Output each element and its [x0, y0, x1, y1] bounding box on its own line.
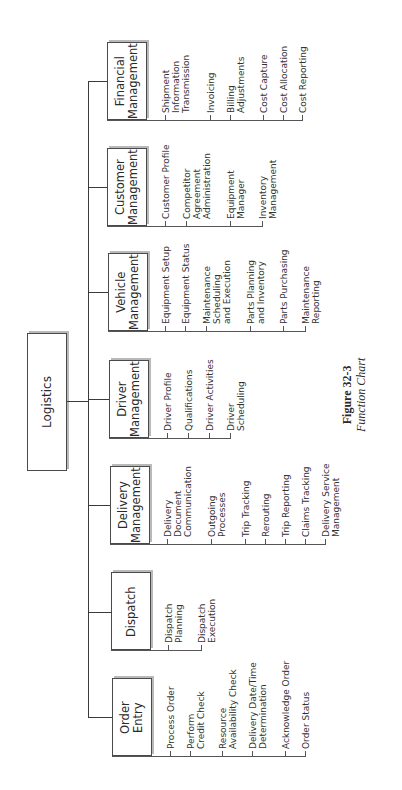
sub-item-delivery-document-communication: Delivery Document Communication: [163, 466, 193, 537]
root-label: Logistics: [40, 376, 54, 428]
sub-item-driver-scheduling: Driver Scheduling: [226, 381, 246, 431]
sub-item-trip-reporting: Trip Reporting: [281, 474, 291, 537]
sub-item-order-status: Order Status: [301, 692, 311, 749]
sub-item-cost-reporting: Cost Reporting: [298, 46, 308, 113]
sub-item-tick: [325, 539, 326, 544]
sub-item-parts-purchasing: Parts Purchasing: [279, 249, 289, 324]
function-box-financial-management: Financial Management: [107, 42, 147, 120]
sub-item-tick: [250, 326, 251, 331]
sub-item-tick: [305, 326, 306, 331]
sub-item-tick: [188, 433, 189, 438]
sub-item-tick: [230, 115, 231, 120]
sub-item-tick: [201, 645, 202, 650]
sub-item-dispatch-planning: Dispatch Planning: [164, 603, 184, 643]
sub-item-driver-activities: Driver Activities: [205, 359, 215, 431]
sub-item-rail: [110, 544, 326, 545]
sub-item-acknowledge-order: Acknowledge Order: [281, 661, 291, 749]
function-box-driver-management: Driver Management: [109, 360, 149, 438]
function-box-label: Customer Management: [114, 149, 140, 225]
sub-item-tick: [168, 645, 169, 650]
sub-item-claims-tracking: Claims Tracking: [301, 466, 311, 537]
sub-item-qualifications: Qualifications: [184, 370, 194, 431]
figure-title: Function Chart: [354, 358, 368, 432]
sub-item-tick: [305, 539, 306, 544]
sub-item-cost-capture: Cost Capture: [259, 54, 269, 113]
sub-item-tick: [209, 433, 210, 438]
sub-item-rail: [111, 650, 202, 651]
sub-item-trip-tracking: Trip Tracking: [241, 481, 251, 537]
sub-item-competitor-agreement-administration: Competitor Agreement Administration: [182, 153, 212, 219]
sub-item-maintenance-scheduling-and-execution: Maintenance Scheduling and Execution: [202, 260, 232, 324]
sub-item-tick: [285, 539, 286, 544]
sub-item-maintenance-reporting: Maintenance Reporting: [301, 266, 321, 324]
sub-item-tick: [305, 751, 306, 756]
sub-item-tick: [265, 539, 266, 544]
function-box-order-entry: Order Entry: [112, 678, 152, 756]
branch-line: [88, 717, 112, 718]
sub-item-inventory-management: Inventory Management: [258, 160, 278, 219]
sub-item-tick: [211, 539, 212, 544]
sub-item-tick: [165, 115, 166, 120]
sub-item-tick: [302, 115, 303, 120]
sub-item-tick: [285, 751, 286, 756]
sub-item-delivery-service-management: Delivery Service Management: [321, 464, 341, 537]
function-box-label: Dispatch: [125, 586, 138, 637]
sub-item-tick: [167, 539, 168, 544]
function-box-vehicle-management: Vehicle Management: [108, 253, 148, 331]
sub-item-tick: [262, 221, 263, 226]
sub-item-resource-availability-check: Resource Availability Check: [218, 669, 238, 749]
sub-item-tick: [185, 326, 186, 331]
branch-line: [88, 505, 110, 506]
sub-item-equipment-setup: Equipment Setup: [161, 246, 171, 324]
root-box-logistics: Logistics: [27, 333, 67, 471]
function-box-label: Vehicle Management: [115, 254, 141, 330]
sub-item-customer-profile: Customer Profile: [161, 144, 171, 219]
sub-item-perform-credit-check: Perform Credit Check: [186, 691, 206, 749]
sub-item-tick: [210, 115, 211, 120]
sub-item-equipment-status: Equipment Status: [181, 244, 191, 324]
sub-item-tick: [222, 751, 223, 756]
function-box-customer-management: Customer Management: [107, 148, 147, 226]
sub-item-rail: [108, 331, 306, 332]
sub-item-parts-planning-and-inventory: Parts Planning and Inventory: [246, 260, 266, 324]
sub-item-tick: [283, 115, 284, 120]
sub-item-tick: [170, 751, 171, 756]
sub-item-delivery-date-time-determination: Delivery Date/Time Determination: [248, 662, 268, 749]
sub-item-invoicing: Invoicing: [206, 72, 216, 113]
sub-item-tick: [252, 751, 253, 756]
function-box-label: Financial Management: [114, 43, 140, 119]
function-box-label: Order Entry: [119, 701, 145, 734]
sub-item-dispatch-execution: Dispatch Execution: [197, 599, 217, 643]
function-box-label: Delivery Management: [117, 467, 143, 543]
function-box-label: Driver Management: [116, 361, 142, 437]
function-chart: Logistics Financial ManagementShipment I…: [0, 0, 402, 790]
figure-number: Figure 32-3: [340, 358, 354, 432]
branch-line: [88, 612, 111, 613]
sub-item-tick: [206, 326, 207, 331]
sub-item-rail: [107, 120, 303, 121]
sub-item-rail: [109, 438, 231, 439]
sub-item-rerouting: Rerouting: [261, 493, 271, 537]
sub-item-tick: [283, 326, 284, 331]
branch-line: [88, 292, 108, 293]
branch-line: [88, 187, 107, 188]
sub-item-outgoing-processes: Outgoing Processes: [207, 493, 227, 537]
sub-item-cost-allocation: Cost Allocation: [279, 46, 289, 113]
sub-item-driver-profile: Driver Profile: [163, 372, 173, 431]
sub-item-tick: [167, 433, 168, 438]
sub-item-tick: [190, 751, 191, 756]
sub-item-tick: [186, 221, 187, 226]
sub-item-shipment-information-transmission: Shipment Information Transmission: [161, 55, 191, 113]
sub-item-billing-adjustments: Billing Adjustments: [226, 57, 246, 113]
function-box-dispatch: Dispatch: [111, 572, 151, 650]
function-box-delivery-management: Delivery Management: [110, 466, 150, 544]
sub-item-equipment-manager: Equipment Manager: [226, 170, 246, 219]
sub-item-tick: [165, 326, 166, 331]
figure-caption: Figure 32-3 Function Chart: [340, 358, 368, 432]
root-connector-line: [67, 401, 88, 402]
sub-item-tick: [263, 115, 264, 120]
sub-item-tick: [230, 221, 231, 226]
sub-item-tick: [165, 221, 166, 226]
sub-item-tick: [230, 433, 231, 438]
sub-item-process-order: Process Order: [166, 686, 176, 749]
